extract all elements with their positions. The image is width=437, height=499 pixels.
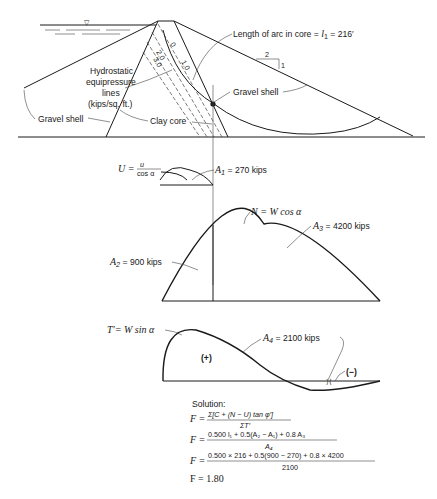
a1-label: A1 = 270 kips [214,164,267,177]
a2-label: A2 = 900 kips [109,256,162,269]
svg-text:cos α: cos α [137,169,154,178]
eq1-denominator: ΣT′ [239,421,251,430]
water-level-icon: ▽ [84,18,90,27]
pore-pressure-diagram: U = u cos α A1 = 270 kips [118,160,267,185]
a4-label: A4 = 2100 kips [262,332,320,345]
positive-region-label: (+) [201,353,212,363]
clay-core-label: Clay core [150,116,187,126]
eq3-numerator: 0.500 × 216 + 0.5(900 − 270) + 0.8 × 420… [208,451,344,460]
svg-text:F =: F = [189,434,205,445]
solution-block: Solution: F = Σ[C + (N − U) tan φ′] ΣT′ … [189,399,375,484]
pressure-label-1: 1.0 [179,59,192,72]
pressure-label-0: 0 [168,41,178,49]
u-formula: U = [118,163,134,174]
svg-text:F =: F = [189,413,205,424]
u-curve [160,168,213,185]
svg-text:⟩⟨: ⟩⟨ [326,377,332,386]
negative-region-label: (−) [346,367,357,377]
eq3-denominator: 2100 [282,463,298,472]
eq2-numerator: 0.500 l₁ + 0.5(A₂ − A₁) + 0.8 A₃ [208,430,305,439]
svg-text:lines: lines [102,88,120,98]
eq1-numerator: Σ[C + (N − U) tan φ′] [207,410,274,419]
gravel-shell-right-label: Gravel shell [233,87,278,97]
svg-text:Hydrostatic: Hydrostatic [90,66,134,76]
eq2-denominator: A₄ [264,442,273,451]
solution-heading: Solution: [192,399,225,409]
arc-length-label: Length of arc in core = l1 = 216′ [233,28,354,41]
svg-text:F =: F = [189,455,205,466]
dam-cross-section: ▽ 0 1.0 2.0 3.0 2 1 [18,18,425,285]
safety-factor-result: F = 1.80 [190,473,224,484]
tangential-force-diagram: T′= W sin α (+) (−) A4 = 2100 kips ⟩⟨ [107,324,380,390]
a3-label: A3 = 4200 kips [312,220,370,233]
slope-rise-label: 1 [281,61,285,70]
n-formula: N = W cos α [250,206,302,217]
normal-force-diagram: N = W cos α A3 = 4200 kips A2 = 900 kips [109,206,380,301]
svg-text:equipressure: equipressure [86,77,136,87]
gravel-shell-left-label: Gravel shell [38,114,83,124]
svg-text:(kips/sq. ft.): (kips/sq. ft.) [88,99,133,109]
slope-run-label: 2 [265,50,269,59]
t-formula: T′= W sin α [107,324,155,335]
slope-stability-diagram: ▽ 0 1.0 2.0 3.0 2 1 [0,0,437,499]
svg-text:u: u [140,160,144,169]
